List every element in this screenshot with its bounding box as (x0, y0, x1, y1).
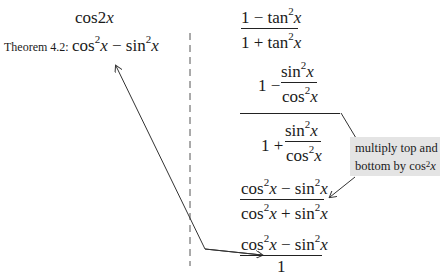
step2-den-prefix: 1 + (261, 137, 283, 154)
callout-leader-top (341, 113, 356, 138)
step1-denominator: 1 + tan2x (241, 34, 301, 51)
step2-num-inner-bar (281, 82, 317, 83)
equivalence-arrow (116, 66, 262, 255)
step2-num-inner-numerator: sin2x (281, 63, 314, 80)
step2-num-prefix: 1 − (258, 77, 280, 94)
step2-den-inner-numerator: sin2x (285, 122, 318, 139)
step2-den-inner-bar (285, 141, 321, 142)
step2-num-inner-denominator: cos2x (282, 88, 318, 105)
callout-note: multiply top and bottom by cos2x (350, 137, 440, 176)
step2-main-fraction-bar (240, 113, 340, 114)
step4-numerator: cos2x − sin2x (241, 236, 328, 253)
cos-2x-heading: cos2x (75, 9, 114, 26)
theorem-label: Theorem 4.2: (4, 40, 69, 55)
step1-numerator: 1 − tan2x (241, 9, 301, 26)
callout-line1: multiply top and (355, 139, 440, 157)
step2-den-inner-denominator: cos2x (286, 147, 322, 164)
callout-line2: bottom by cos2x (355, 157, 440, 175)
step3-fraction-bar (240, 199, 324, 200)
callout-arrow-bottom (330, 177, 355, 197)
step3-numerator: cos2x − sin2x (241, 180, 328, 197)
step4-denominator: 1 (277, 258, 286, 275)
theorem-expression: cos2x − sin2x (72, 37, 159, 54)
step3-denominator: cos2x + sin2x (241, 205, 328, 222)
